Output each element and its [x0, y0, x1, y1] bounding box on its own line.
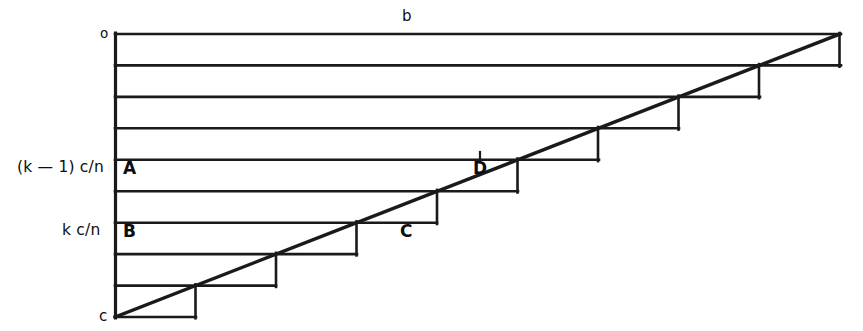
- label-point-c: C: [400, 223, 412, 240]
- label-point-d: D: [473, 160, 487, 177]
- label-point-a: A: [123, 160, 136, 177]
- label-point-b: B: [123, 223, 136, 240]
- label-top-width-b: b: [402, 9, 412, 24]
- label-origin-bottom: c: [99, 309, 107, 324]
- figure-canvas: o b (k — 1) c/n k c/n c A B C D: [0, 0, 863, 331]
- staircase-right-edges: [196, 33, 840, 318]
- label-axis-lower: k c/n: [62, 223, 100, 239]
- label-origin-top: o: [100, 27, 108, 41]
- label-axis-upper: (k — 1) c/n: [17, 160, 104, 176]
